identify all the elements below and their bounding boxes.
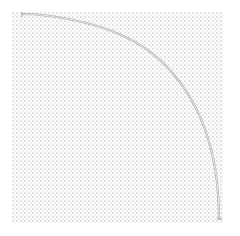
curve-layer bbox=[0, 0, 240, 236]
quarter-arc-curve bbox=[22, 14, 219, 219]
figure-canvas bbox=[0, 0, 240, 236]
quarter-arc-highlight bbox=[22, 14, 219, 219]
